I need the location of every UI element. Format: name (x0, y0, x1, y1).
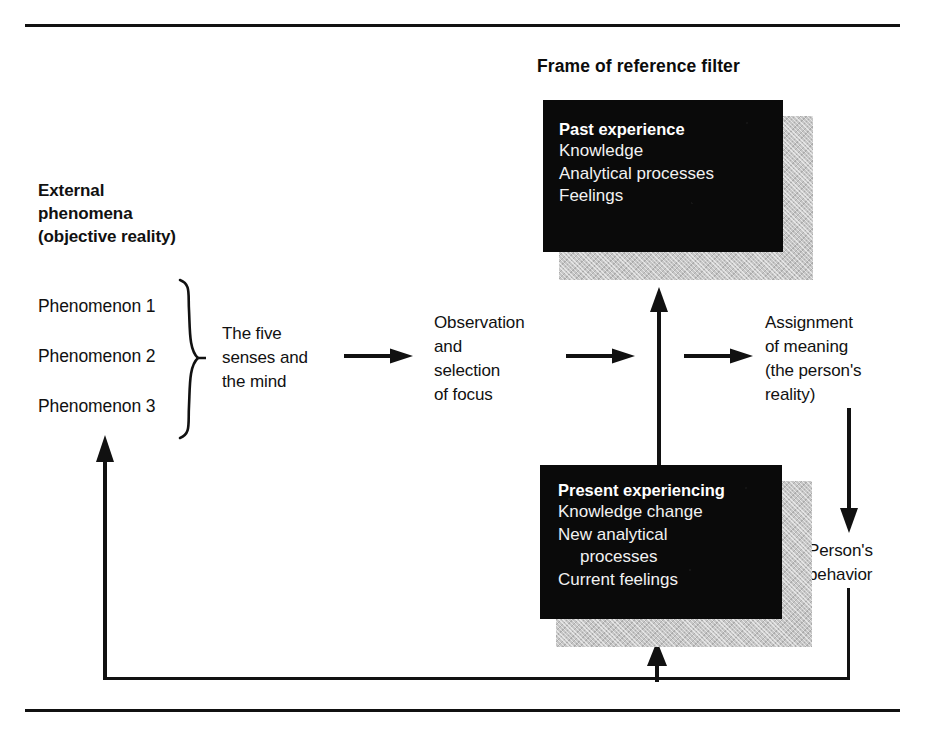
present-experiencing-box-body: Present experiencing Knowledge change Ne… (540, 465, 782, 619)
past-experience-line-3: Feelings (559, 185, 783, 208)
feedback-line-right-vertical (847, 588, 850, 680)
top-rule (25, 24, 900, 27)
frame-of-reference-filter-heading: Frame of reference filter (537, 56, 740, 77)
present-experiencing-title: Present experiencing (558, 479, 782, 501)
past-experience-line-1: Knowledge (559, 140, 783, 163)
present-experiencing-line-2: New analytical (558, 524, 782, 547)
arrow-observation-to-filter-icon (566, 347, 636, 365)
bottom-rule (25, 709, 900, 712)
five-senses-stage-label: The five senses and the mind (222, 322, 308, 394)
present-experiencing-line-4: Current feelings (558, 569, 782, 592)
present-experiencing-box: Present experiencing Knowledge change Ne… (540, 465, 812, 647)
past-experience-title: Past experience (559, 118, 783, 140)
phenomenon-1-label: Phenomenon 1 (38, 296, 156, 316)
feedback-line-bottom-horizontal (105, 677, 850, 680)
persons-behavior-label: Person's behavior (808, 539, 873, 587)
present-experiencing-line-1: Knowledge change (558, 501, 782, 524)
arrow-present-to-past-icon (646, 284, 672, 470)
diagram-canvas: Frame of reference filter External pheno… (0, 0, 925, 740)
past-experience-box-body: Past experience Knowledge Analytical pro… (543, 100, 783, 252)
past-experience-line-2: Analytical processes (559, 163, 783, 186)
assignment-of-meaning-stage-label: Assignment of meaning (the person's real… (765, 311, 861, 407)
grouping-brace-icon (176, 278, 206, 440)
arrow-filter-to-assignment-icon (684, 347, 754, 365)
observation-stage-label: Observation and selection of focus (434, 311, 525, 407)
past-experience-box: Past experience Knowledge Analytical pro… (543, 100, 813, 280)
arrow-assignment-to-behavior-icon (836, 408, 862, 536)
external-phenomena-label: External phenomena (objective reality) (38, 179, 176, 248)
arrow-feedback-to-phenomena-icon (92, 430, 118, 680)
phenomenon-2-label: Phenomenon 2 (38, 346, 156, 366)
arrow-senses-to-observation-icon (344, 347, 414, 365)
phenomenon-3-label: Phenomenon 3 (38, 396, 156, 416)
present-experiencing-line-3: processes (558, 546, 782, 569)
